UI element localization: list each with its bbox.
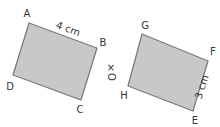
vertex-label-a: A — [24, 8, 31, 19]
center-point-marker-icon: × — [107, 62, 115, 73]
vertex-label-h: H — [120, 90, 128, 101]
center-point-label-o: O — [106, 73, 117, 81]
vertex-label-g: G — [141, 20, 149, 31]
vertex-label-b: B — [100, 37, 107, 48]
vertex-label-f: F — [210, 46, 216, 57]
vertex-label-e: E — [192, 115, 198, 126]
rectangle-abcd — [13, 23, 97, 100]
rectangle-efgh — [128, 34, 208, 111]
vertex-label-c: C — [77, 104, 84, 115]
vertex-label-d: D — [6, 81, 14, 92]
geometry-figure: A B C D G F E H 4 cm 3 cm × O — [0, 0, 220, 127]
